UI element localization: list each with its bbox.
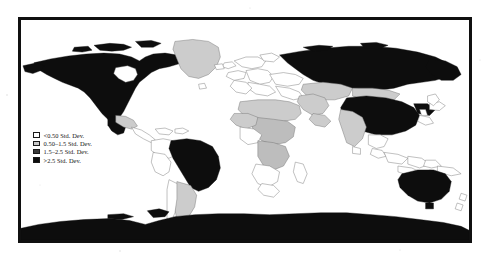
legend-swatch-mid <box>33 149 40 155</box>
legend-swatch-low <box>33 141 40 147</box>
legend-item-2[interactable]: 1.5–2.5 Std. Dev. <box>33 148 92 156</box>
legend-item-0[interactable]: <0.50 Std. Dev. <box>33 131 92 139</box>
legend-swatch-high <box>33 157 40 163</box>
legend-item-3[interactable]: >2.5 Std. Dev. <box>33 156 92 164</box>
world-map[interactable]: .cls-none { fill:#ffffff; stroke:#707070… <box>21 20 469 240</box>
legend-item-1[interactable]: 0.50–1.5 Std. Dev. <box>33 139 92 147</box>
legend-label-3: >2.5 Std. Dev. <box>44 157 81 164</box>
legend-label-2: 1.5–2.5 Std. Dev. <box>44 148 89 155</box>
page-canvas: .cls-none { fill:#ffffff; stroke:#707070… <box>0 0 488 257</box>
legend-label-0: <0.50 Std. Dev. <box>44 132 85 139</box>
map-legend: <0.50 Std. Dev. 0.50–1.5 Std. Dev. 1.5–2… <box>33 131 92 164</box>
legend-label-1: 0.50–1.5 Std. Dev. <box>44 140 92 147</box>
map-frame: .cls-none { fill:#ffffff; stroke:#707070… <box>18 17 472 243</box>
legend-swatch-none <box>33 132 40 138</box>
